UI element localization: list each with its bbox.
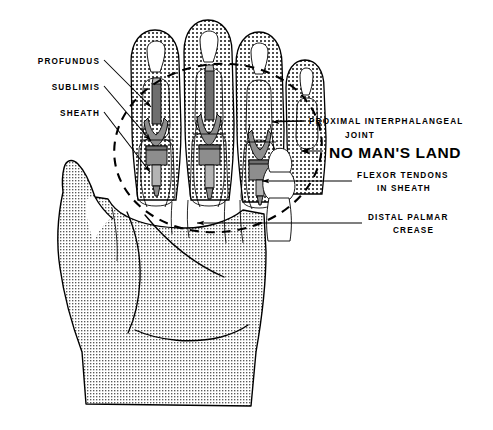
- label-sublimis: SUBLIMIS: [52, 83, 100, 92]
- label-in-sheath: IN SHEATH: [377, 184, 431, 193]
- middle-profundus-tendon: [205, 70, 214, 120]
- index-profundus-tendon: [152, 83, 161, 124]
- label-no-mans-land: NO MAN'S LAND: [329, 144, 461, 161]
- label-distal-palmar: DISTAL PALMAR: [368, 213, 448, 222]
- index-tendon-stub: [152, 165, 161, 186]
- label-profundus: PROFUNDUS: [38, 57, 100, 66]
- hand-diagram-canvas: PROFUNDUS SUBLIMIS SHEATH PROXIMAL INTER…: [0, 0, 493, 430]
- index-finger: [131, 30, 181, 207]
- label-flexor-tendons: FLEXOR TENDONS: [357, 171, 449, 180]
- label-sheath: SHEATH: [60, 109, 100, 118]
- label-proximal-interphalangeal: PROXIMAL INTERPHALANGEAL: [309, 117, 463, 126]
- index-sheath-pulley-band: [146, 146, 167, 150]
- label-joint: JOINT: [345, 131, 375, 140]
- label-crease: CREASE: [393, 226, 434, 235]
- little-finger-proximal-phalanx-white: [268, 148, 291, 172]
- middle-tendon-stub: [205, 165, 214, 188]
- middle-sheath-pulley-band: [199, 145, 220, 149]
- ring-sheath-pulley-band: [249, 160, 270, 164]
- middle-profundus-insertion: [205, 65, 214, 71]
- anatomy-figure: PROFUNDUS SUBLIMIS SHEATH PROXIMAL INTER…: [0, 0, 493, 430]
- middle-finger: [184, 20, 234, 207]
